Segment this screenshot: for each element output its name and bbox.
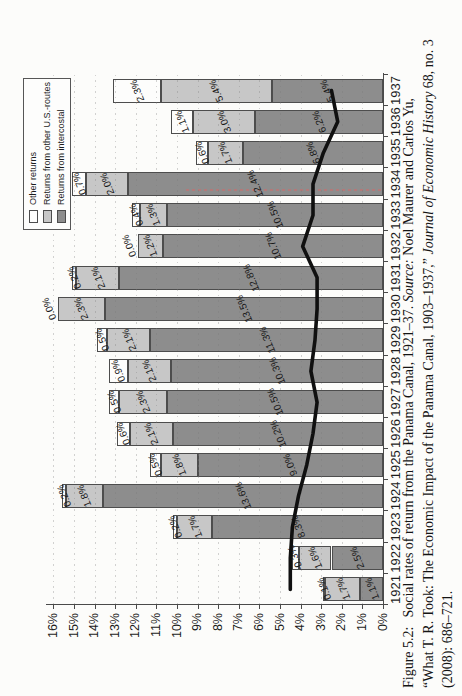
legend-label: Other returns <box>28 152 38 205</box>
legend-swatch <box>43 210 52 223</box>
source-label: Source: <box>401 259 416 302</box>
y-axis-tick-label: 13% <box>109 613 122 649</box>
x-axis-tick <box>384 479 388 480</box>
x-axis-tick <box>384 604 388 605</box>
y-axis-tick <box>383 605 384 609</box>
gridline-13% <box>115 74 116 604</box>
y-axis-tick <box>362 605 363 609</box>
caption-pages: (2008): 686–721. <box>440 591 455 688</box>
y-axis-tick-label: 12% <box>129 613 142 649</box>
gridline-15% <box>74 74 75 604</box>
gridline-12% <box>136 74 137 604</box>
x-axis-tick <box>384 542 388 543</box>
x-axis-tick <box>384 105 388 106</box>
caption-article-title: “What T. R. Took: The Economic Impact of… <box>421 255 436 688</box>
y-axis-tick <box>136 605 137 609</box>
x-axis-tick <box>384 448 388 449</box>
gridline-2% <box>342 74 343 604</box>
caption-volume: 68, no. 3 <box>421 39 436 92</box>
gridline-11% <box>156 74 157 604</box>
y-axis-tick <box>218 605 219 609</box>
figure-5-2-rotated-chart: 1921192219231924192519261927192819291930… <box>0 0 462 696</box>
scan-artifact-red-line <box>186 189 383 191</box>
y-axis-tick-label: 7% <box>232 613 245 649</box>
caption-line-3: (2008): 686–721. <box>438 0 458 688</box>
y-axis-tick <box>156 605 157 609</box>
caption-line-1: Figure 5.2:Social rates of return from t… <box>399 0 419 688</box>
figure-number-label: Figure 5.2: <box>401 627 416 688</box>
legend-item: Other returns <box>28 85 38 223</box>
y-axis-tick-label: 3% <box>315 613 328 649</box>
x-axis-tick <box>384 292 388 293</box>
y-axis-tick <box>177 605 178 609</box>
y-axis-tick-label: 6% <box>253 613 266 649</box>
y-axis-tick-label: 11% <box>150 613 163 649</box>
y-axis-tick <box>198 605 199 609</box>
y-axis-tick <box>95 605 96 609</box>
y-axis-tick <box>321 605 322 609</box>
x-axis-line <box>383 73 384 605</box>
y-axis-tick-label: 14% <box>88 613 101 649</box>
x-axis-tick <box>384 167 388 168</box>
y-axis-tick-label: 0% <box>377 613 390 649</box>
gridline-3% <box>321 74 322 604</box>
y-axis-tick <box>239 605 240 609</box>
y-axis-tick <box>53 605 54 609</box>
x-axis-tick <box>384 136 388 137</box>
bar-value-label: 0.0% <box>39 296 58 321</box>
gridline-1% <box>362 74 363 604</box>
x-axis-tick <box>384 417 388 418</box>
x-axis-tick <box>384 573 388 574</box>
figure-caption: Figure 5.2:Social rates of return from t… <box>399 0 458 688</box>
y-axis-tick-label: 15% <box>68 613 81 649</box>
x-axis-tick <box>384 386 388 387</box>
x-axis-tick <box>384 230 388 231</box>
y-axis-tick <box>74 605 75 609</box>
y-axis-tick-label: 16% <box>47 613 60 649</box>
y-axis-tick-label: 4% <box>294 613 307 649</box>
caption-text: Social rates of return from the Panama C… <box>401 302 416 617</box>
y-axis-tick-label: 5% <box>274 613 287 649</box>
y-axis-tick-label: 8% <box>212 613 225 649</box>
legend-swatch <box>57 210 66 223</box>
legend-item: Returns from intercostal <box>56 85 66 223</box>
y-axis-tick <box>342 605 343 609</box>
y-axis-tick-label: 9% <box>191 613 204 649</box>
legend-label: Returns from intercostal <box>56 109 66 205</box>
x-axis-tick <box>384 323 388 324</box>
legend-item: Returns from other U.S.-routes <box>42 85 52 223</box>
legend-swatch <box>29 210 38 223</box>
gridline-5% <box>280 74 281 604</box>
y-axis-tick-label: 10% <box>171 613 184 649</box>
x-axis-tick <box>384 74 388 75</box>
legend-label: Returns from other U.S.-routes <box>42 82 52 205</box>
y-axis-tick <box>259 605 260 609</box>
gridline-7% <box>239 74 240 604</box>
x-axis-tick <box>384 261 388 262</box>
caption-line-2: “What T. R. Took: The Economic Impact of… <box>419 0 439 688</box>
y-axis-tick <box>115 605 116 609</box>
journal-title: Journal of Economic History <box>421 92 436 255</box>
x-axis-tick <box>384 355 388 356</box>
scanned-book-page: 1921192219231924192519261927192819291930… <box>0 0 462 696</box>
x-axis-tick <box>384 199 388 200</box>
y-axis-tick-label: 2% <box>335 613 348 649</box>
y-axis-tick <box>280 605 281 609</box>
y-axis-tick-label: 1% <box>356 613 369 649</box>
y-axis-line <box>46 604 384 605</box>
caption-authors: Noel Maurer and Carlos Yu, <box>401 98 416 259</box>
x-axis-tick <box>384 510 388 511</box>
y-axis-tick <box>301 605 302 609</box>
chart-legend: Other returnsReturns from other U.S.-rou… <box>23 78 71 230</box>
